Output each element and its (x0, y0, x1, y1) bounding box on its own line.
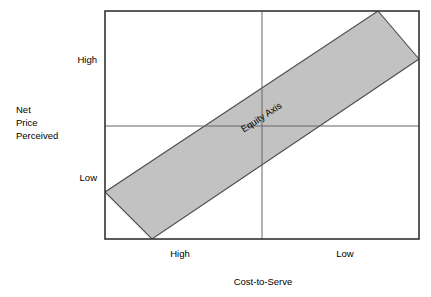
y-axis-title-line-1: Net (16, 104, 31, 115)
equity-axis-diagram: Equity Axis High Low Net Price Perceived… (0, 0, 431, 297)
x-axis-title: Cost-to-Serve (234, 276, 293, 287)
x-tick-high: High (170, 248, 190, 259)
y-axis-title-line-3: Perceived (16, 130, 58, 141)
matrix-chart: Equity Axis High Low Net Price Perceived… (0, 0, 431, 297)
y-tick-low: Low (80, 172, 98, 183)
y-axis-title-line-2: Price (16, 117, 38, 128)
x-tick-low: Low (336, 248, 354, 259)
y-tick-high: High (77, 54, 97, 65)
